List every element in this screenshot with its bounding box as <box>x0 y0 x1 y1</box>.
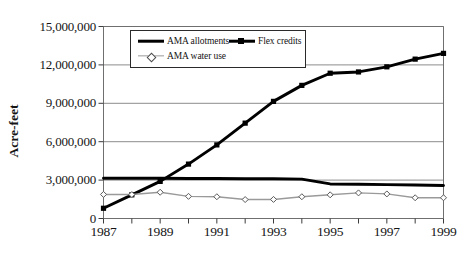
series-marker-square <box>441 51 446 56</box>
series-marker-square <box>413 57 418 62</box>
series-marker-square <box>271 99 276 104</box>
series-marker-square <box>214 142 219 147</box>
series-marker-square <box>384 64 389 69</box>
series-marker-square <box>299 83 304 88</box>
series-marker-diamond <box>412 195 418 201</box>
series-marker-diamond <box>214 194 220 200</box>
legend-line-square-marker-icon <box>229 37 255 46</box>
legend-item-label: Flex credits <box>258 36 301 46</box>
series-marker-diamond <box>242 197 248 203</box>
series-marker-diamond <box>271 196 277 202</box>
series-marker-square <box>158 179 163 184</box>
legend-item-flex-credits: Flex credits <box>229 36 301 46</box>
series-marker-square <box>101 206 106 211</box>
series-marker-square <box>243 121 248 126</box>
legend-line-diamond-marker-icon <box>138 52 164 61</box>
series-marker-square <box>186 162 191 167</box>
series-marker-diamond <box>327 192 333 198</box>
series-marker-diamond <box>384 191 390 197</box>
series-marker-square <box>356 69 361 74</box>
legend-item-label: AMA water use <box>167 51 226 61</box>
line-chart: Acre-feet 03,000,0006,000,0009,000,00012… <box>0 0 467 261</box>
series-marker-diamond <box>299 194 305 200</box>
legend-item-ama-allotments: AMA allotments <box>138 36 229 46</box>
series-marker-diamond <box>101 191 107 197</box>
legend-line-swatch-icon <box>138 37 164 46</box>
series-marker-diamond <box>157 189 163 195</box>
series-marker-square <box>328 71 333 76</box>
legend-item-label: AMA allotments <box>167 36 229 46</box>
series-marker-diamond <box>441 195 447 201</box>
series-marker-diamond <box>356 190 362 196</box>
legend-item-ama-water-use: AMA water use <box>138 51 226 61</box>
series-marker-diamond <box>186 193 192 199</box>
chart-legend: AMA allotments Flex credits AMA water us… <box>130 30 306 68</box>
